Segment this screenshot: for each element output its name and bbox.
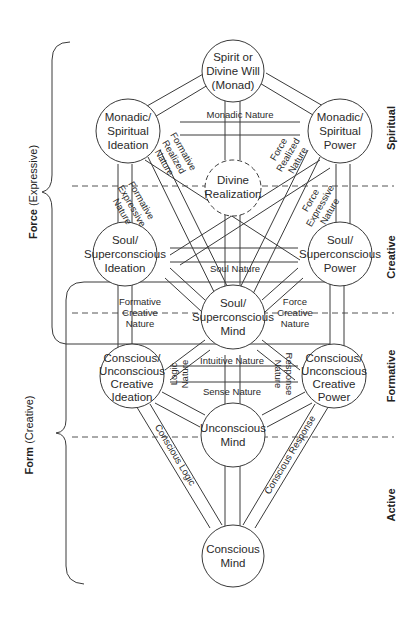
svg-text:Mind: Mind xyxy=(221,325,246,337)
svg-text:Divine Will: Divine Will xyxy=(206,65,260,77)
node-monadic-power: Monadic/ Spiritual Power xyxy=(308,99,372,163)
svg-text:Soul/: Soul/ xyxy=(220,297,247,309)
svg-text:Formative: Formative xyxy=(385,350,397,403)
level-label-spiritual: Spiritual xyxy=(385,106,397,150)
svg-text:Divine: Divine xyxy=(217,174,249,186)
svg-text:Unconscious: Unconscious xyxy=(301,365,367,377)
node-conscious-power: Conscious/ Unconscious Creative Power xyxy=(301,344,367,408)
svg-text:Creative: Creative xyxy=(313,378,356,390)
svg-text:Nature: Nature xyxy=(179,360,190,389)
svg-text:Creative: Creative xyxy=(277,307,312,318)
svg-text:Conscious Logic: Conscious Logic xyxy=(153,422,198,488)
node-soul-ideation: Soul/ Superconscious Ideation xyxy=(84,222,166,286)
node-soul-mind: Soul/ Superconscious Mind xyxy=(192,285,274,349)
label-force-creative: Force Creative Nature xyxy=(277,296,312,329)
node-soul-power: Soul/ Superconscious Power xyxy=(299,222,381,286)
svg-text:Mind: Mind xyxy=(221,436,246,448)
svg-text:Realization: Realization xyxy=(205,188,262,200)
label-intuitive-nature: Intuitive Nature xyxy=(200,355,264,366)
svg-text:Soul/: Soul/ xyxy=(327,234,354,246)
label-formative-creative: Formative Creative Nature xyxy=(119,296,161,329)
svg-text:Spiritual: Spiritual xyxy=(319,125,361,137)
svg-text:(Monad): (Monad) xyxy=(212,79,255,91)
svg-text:Power: Power xyxy=(318,391,351,403)
level-label-creative: Creative xyxy=(385,235,397,278)
label-response-nature: Response Nature xyxy=(273,353,295,396)
svg-text:Ideation: Ideation xyxy=(112,391,153,403)
svg-text:Ideation: Ideation xyxy=(105,262,146,274)
svg-text:Form (Creative): Form (Creative) xyxy=(23,396,35,475)
svg-text:Spirit or: Spirit or xyxy=(213,51,253,63)
svg-text:Spiritual: Spiritual xyxy=(107,125,149,137)
node-spirit: Spirit or Divine Will (Monad) xyxy=(202,40,264,102)
svg-text:Superconscious: Superconscious xyxy=(299,248,381,260)
label-conscious-logic: Conscious Logic xyxy=(153,422,198,488)
svg-text:Conscious/: Conscious/ xyxy=(104,352,162,364)
svg-text:Monadic/: Monadic/ xyxy=(317,111,364,123)
svg-text:Power: Power xyxy=(324,139,357,151)
svg-text:Unconscious: Unconscious xyxy=(200,422,266,434)
svg-text:Conscious: Conscious xyxy=(206,543,260,555)
svg-text:Conscious/: Conscious/ xyxy=(306,352,364,364)
svg-text:Formative: Formative xyxy=(119,296,161,307)
level-label-active: Active xyxy=(385,488,397,521)
svg-text:Nature: Nature xyxy=(273,360,284,389)
node-conscious-mind: Conscious Mind xyxy=(202,525,264,587)
level-label-formative: Formative xyxy=(385,350,397,403)
label-force-realized: Force Realized Nature xyxy=(264,130,311,179)
label-sense-nature: Sense Nature xyxy=(203,386,261,397)
svg-text:Response: Response xyxy=(284,353,295,396)
svg-text:Ideation: Ideation xyxy=(108,139,149,151)
svg-text:Force (Expressive): Force (Expressive) xyxy=(27,145,39,239)
tree-diagram: Spirit or Divine Will (Monad) Monadic/ S… xyxy=(0,0,414,622)
brace-label-force: Force (Expressive) xyxy=(27,145,39,239)
svg-text:Unconscious: Unconscious xyxy=(99,365,165,377)
node-unconscious-mind: Unconscious Mind xyxy=(200,403,266,467)
node-divine-realization: Divine Realization xyxy=(205,160,262,216)
svg-text:Spiritual: Spiritual xyxy=(385,106,397,150)
label-logic-nature: Logic Nature xyxy=(168,360,190,389)
svg-text:Creative: Creative xyxy=(385,235,397,278)
label-soul-nature: Soul Nature xyxy=(210,263,260,274)
svg-text:Power: Power xyxy=(324,262,357,274)
brace-form xyxy=(56,344,84,584)
svg-text:Monadic/: Monadic/ xyxy=(105,111,152,123)
svg-text:Nature: Nature xyxy=(126,318,155,329)
svg-text:Creative: Creative xyxy=(111,378,154,390)
svg-text:Active: Active xyxy=(385,488,397,521)
label-monadic-nature: Monadic Nature xyxy=(206,109,273,120)
svg-text:Creative: Creative xyxy=(122,307,157,318)
svg-text:Mind: Mind xyxy=(221,557,246,569)
svg-text:Soul/: Soul/ xyxy=(112,234,139,246)
node-monadic-ideation: Monadic/ Spiritual Ideation xyxy=(96,99,160,163)
svg-text:Superconscious: Superconscious xyxy=(192,311,274,323)
brace-label-form: Form (Creative) xyxy=(23,396,35,475)
svg-text:Force: Force xyxy=(283,296,307,307)
node-conscious-ideation: Conscious/ Unconscious Creative Ideation xyxy=(99,344,165,408)
svg-text:Superconscious: Superconscious xyxy=(84,248,166,260)
svg-text:Logic: Logic xyxy=(168,362,179,385)
svg-text:Nature: Nature xyxy=(281,318,310,329)
